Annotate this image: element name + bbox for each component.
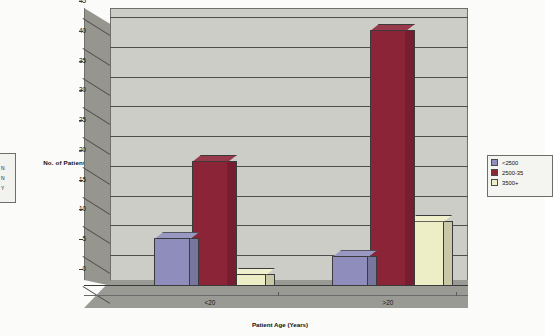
x-tick-mark [456, 292, 457, 296]
gridline: 45 [110, 17, 468, 18]
x-axis-baseline [84, 295, 468, 296]
gridline-depth-edge [83, 78, 110, 95]
gridline-depth-edge [83, 256, 110, 273]
legend-left-item: N [0, 175, 14, 182]
legend-item[interactable]: <2500 [491, 159, 549, 166]
bar-top-face [332, 250, 377, 257]
gridline-depth-edge [83, 107, 110, 124]
legend-left-item: N [0, 165, 14, 172]
x-axis-title: Patient Age (Years) [215, 321, 345, 328]
bar-top-face [192, 155, 237, 162]
bar-front-face [370, 30, 406, 286]
gridline-depth-edge [83, 48, 110, 65]
gridline-depth-edge [83, 197, 110, 214]
legend-left-label: N [1, 166, 5, 171]
legend-swatch-icon [491, 159, 498, 166]
x-tick-mark [278, 292, 279, 296]
legend-left-partial: N N Y [0, 153, 16, 203]
legend: <2500 2500-35 3500+ [487, 155, 553, 197]
bar-front-face [332, 256, 368, 286]
bar-top-face [154, 232, 199, 239]
legend-label: <2500 [502, 160, 518, 166]
legend-swatch-icon [491, 169, 498, 176]
bar-top-face [370, 24, 415, 31]
legend-swatch-icon [491, 179, 498, 186]
bar[interactable] [332, 256, 368, 286]
bar[interactable] [154, 238, 190, 286]
x-tick-label: >20 [383, 299, 394, 306]
legend-item[interactable]: 2500-35 [491, 169, 549, 176]
legend-left-label: Y [1, 186, 4, 191]
gridline-depth-edge [83, 167, 110, 184]
bar-side-face [444, 221, 453, 287]
bar-side-face [266, 274, 275, 286]
legend-left-label: N [1, 176, 5, 181]
bar-side-face [228, 161, 237, 286]
gridline-depth-edge [83, 137, 110, 154]
bar-side-face [406, 30, 415, 286]
legend-item[interactable]: 3500+ [491, 179, 549, 186]
bar-side-face [368, 256, 377, 286]
legend-left-item: Y [0, 185, 14, 192]
legend-label: 2500-35 [502, 170, 523, 176]
bar[interactable] [370, 30, 406, 286]
legend-label: 3500+ [502, 180, 518, 186]
bar-front-face [154, 238, 190, 286]
plot-area: 051015202530354045 <20>20 [84, 8, 468, 308]
gridline-depth-edge [83, 18, 110, 35]
x-tick-label: <20 [205, 299, 216, 306]
bar-side-face [190, 238, 199, 286]
gridline-depth-edge [83, 226, 110, 243]
y-tick-mark [79, 1, 83, 2]
